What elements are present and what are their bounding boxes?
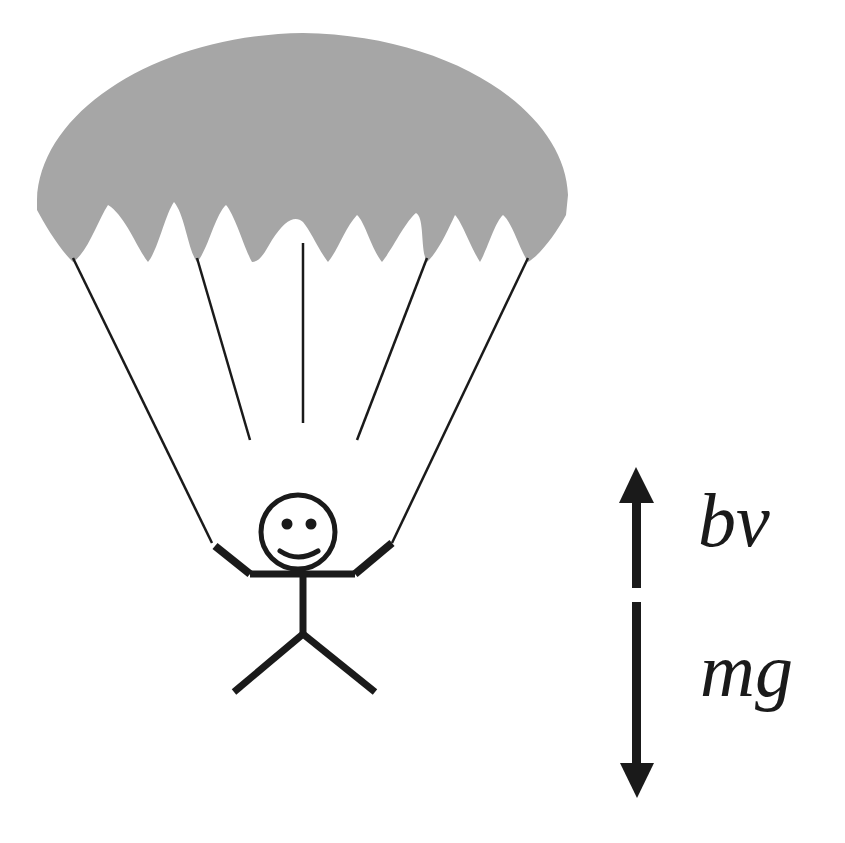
suspension-line-1 [73,258,212,543]
parachute-diagram [0,0,845,843]
right-forearm [355,543,392,574]
suspension-line-2 [197,258,250,440]
gravity-force-arrow [620,602,654,798]
smile [280,551,318,557]
suspension-lines [73,243,528,543]
suspension-line-4 [357,258,427,440]
right-eye [307,520,315,528]
parachute-canopy [37,33,568,262]
arrow-up-icon [619,467,654,503]
suspension-line-5 [392,258,528,543]
gravity-force-label: mg [700,632,793,708]
right-leg [303,634,375,692]
left-forearm [215,546,250,574]
arrow-down-icon [620,763,654,798]
left-leg [234,634,303,692]
drag-force-label: bv [698,482,770,558]
left-eye [283,520,291,528]
drag-force-arrow [619,467,654,588]
stick-figure [215,495,392,692]
